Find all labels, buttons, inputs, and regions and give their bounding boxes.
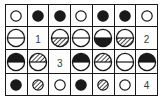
- grid-cell-r1-c3[interactable]: [49, 5, 71, 27]
- grid-cell-r3-c6[interactable]: [114, 50, 136, 73]
- half-circle-white-white: [115, 52, 135, 72]
- grid-cell-r1-c4[interactable]: [71, 5, 93, 27]
- small-solid-circle: [7, 76, 25, 94]
- number-cell-4: 4: [144, 81, 150, 91]
- grid-row: 4: [6, 73, 158, 95]
- grid-cell-r1-c6[interactable]: [114, 5, 136, 27]
- grid-cell-r1-c1[interactable]: [6, 5, 28, 27]
- half-circle-black-white: [137, 52, 157, 72]
- small-solid-circle: [72, 76, 90, 94]
- grid-cell-r3-c5[interactable]: [92, 50, 114, 73]
- small-open-circle: [138, 7, 156, 25]
- puzzle-container: 1234: [5, 4, 158, 96]
- grid-cell-r2-c7[interactable]: 2: [136, 27, 158, 50]
- grid-cell-r1-c5[interactable]: [92, 5, 114, 27]
- number-cell-2: 2: [144, 35, 150, 45]
- grid-cell-r4-c5[interactable]: [92, 73, 114, 95]
- small-solid-circle: [29, 7, 47, 25]
- grid-cell-r1-c2[interactable]: [27, 5, 49, 27]
- grid-cell-r2-c1[interactable]: [6, 27, 28, 50]
- small-hatched-circle: [29, 76, 47, 94]
- half-circle-black-white: [71, 52, 91, 72]
- grid-cell-r2-c2[interactable]: 1: [27, 27, 49, 50]
- half-circle-hatch-white: [93, 52, 113, 72]
- number-cell-1: 1: [35, 35, 41, 45]
- small-open-circle: [72, 7, 90, 25]
- grid-cell-r2-c5[interactable]: [92, 27, 114, 50]
- small-open-circle: [7, 7, 25, 25]
- grid-cell-r2-c3[interactable]: [49, 27, 71, 50]
- half-circle-black-white: [6, 52, 26, 72]
- grid-cell-r3-c2[interactable]: [27, 50, 49, 73]
- small-solid-circle: [51, 7, 69, 25]
- grid-cell-r4-c6[interactable]: [114, 73, 136, 95]
- half-circle-white-black: [93, 28, 113, 48]
- grid-row: 3: [6, 50, 158, 73]
- grid-cell-r3-c7[interactable]: [136, 50, 158, 73]
- small-hatched-circle: [94, 76, 112, 94]
- half-circle-white-hatch: [50, 28, 70, 48]
- grid-row: [6, 5, 158, 27]
- half-circle-hatch-white: [28, 52, 48, 72]
- small-solid-circle: [116, 7, 134, 25]
- grid-cell-r3-c1[interactable]: [6, 50, 28, 73]
- grid-cell-r4-c3[interactable]: [49, 73, 71, 95]
- grid-cell-r4-c4[interactable]: [71, 73, 93, 95]
- small-open-circle: [116, 76, 134, 94]
- number-cell-3: 3: [57, 59, 63, 69]
- grid-cell-r4-c7[interactable]: 4: [136, 73, 158, 95]
- symbol-grid: 1234: [5, 4, 158, 96]
- grid-cell-r3-c4[interactable]: [71, 50, 93, 73]
- half-circle-white-white: [6, 28, 26, 48]
- grid-cell-r4-c1[interactable]: [6, 73, 28, 95]
- grid-cell-r2-c4[interactable]: [71, 27, 93, 50]
- grid-cell-r4-c2[interactable]: [27, 73, 49, 95]
- grid-row: 12: [6, 27, 158, 50]
- grid-cell-r1-c7[interactable]: [136, 5, 158, 27]
- grid-cell-r2-c6[interactable]: [114, 27, 136, 50]
- half-circle-white-white: [71, 28, 91, 48]
- small-solid-circle: [94, 7, 112, 25]
- half-circle-white-hatch: [115, 28, 135, 48]
- grid-cell-r3-c3[interactable]: 3: [49, 50, 71, 73]
- small-open-circle: [51, 76, 69, 94]
